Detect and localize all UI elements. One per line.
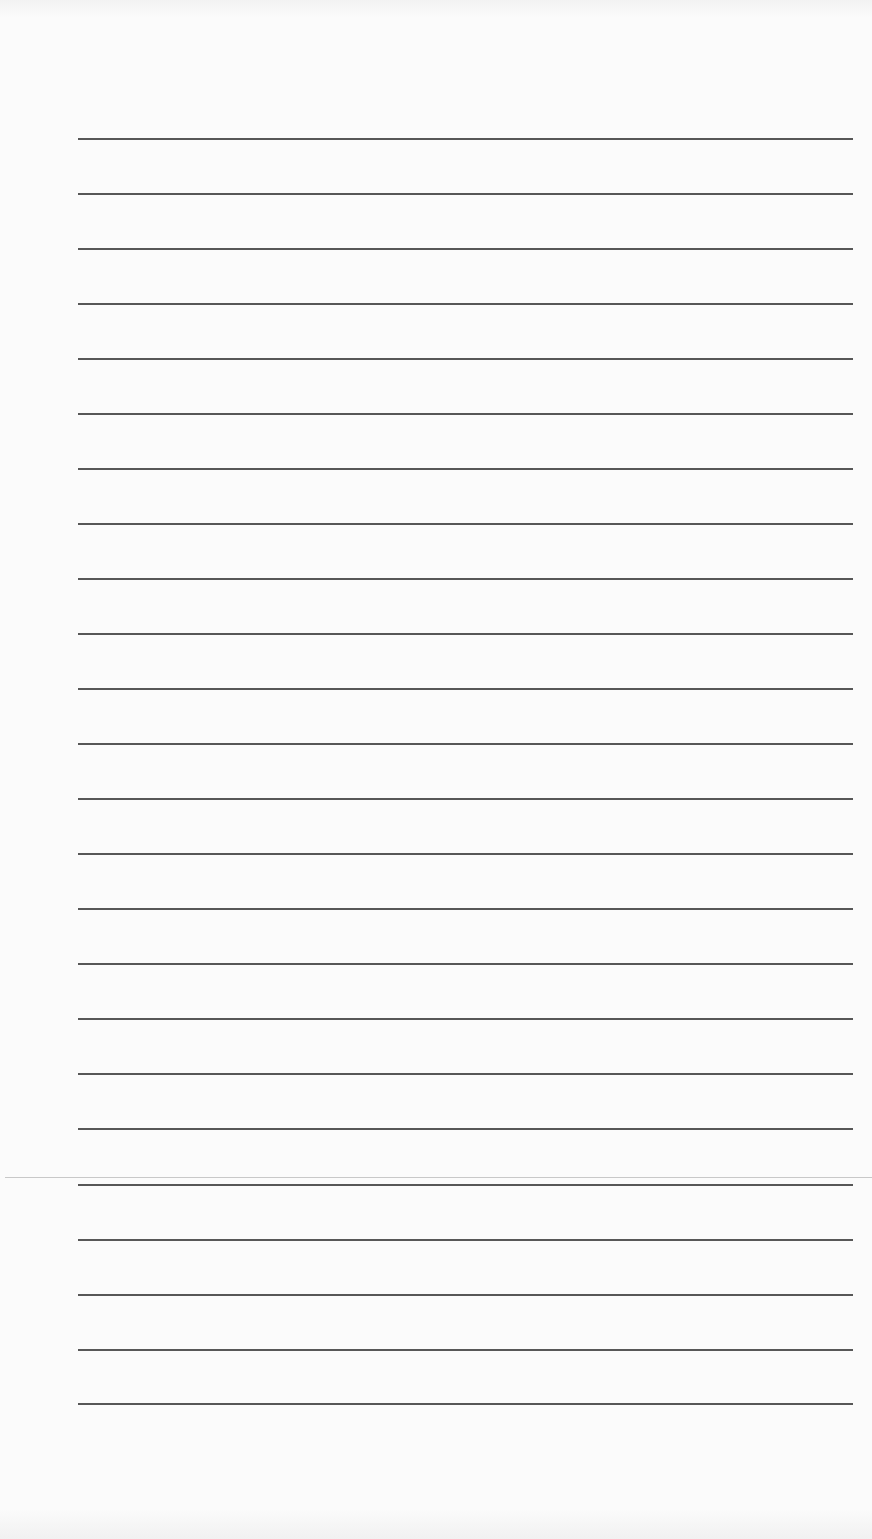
ruled-line <box>78 248 853 250</box>
ruled-line <box>78 1073 853 1075</box>
ruled-line <box>78 468 853 470</box>
ruled-line <box>78 1349 853 1351</box>
ruled-line <box>78 688 853 690</box>
ruled-line <box>78 523 853 525</box>
ruled-line <box>78 1184 853 1186</box>
ruled-line <box>78 743 853 745</box>
scan-bottom-shadow <box>0 1509 872 1539</box>
ruled-line <box>78 1294 853 1296</box>
ruled-line <box>78 413 853 415</box>
ruled-line <box>78 1018 853 1020</box>
ruled-line <box>78 963 853 965</box>
ruled-line <box>78 138 853 140</box>
ruled-line <box>78 1128 853 1130</box>
ruled-line <box>78 578 853 580</box>
ruled-line <box>78 853 853 855</box>
scan-top-shadow <box>0 0 872 18</box>
ruled-line <box>78 303 853 305</box>
ruled-line <box>78 633 853 635</box>
ruled-line <box>78 193 853 195</box>
ruled-line <box>78 358 853 360</box>
ruled-line <box>78 1239 853 1241</box>
ruled-line <box>78 798 853 800</box>
scan-seam-line <box>5 1177 872 1178</box>
ruled-line <box>78 1403 853 1405</box>
ruled-line <box>78 908 853 910</box>
